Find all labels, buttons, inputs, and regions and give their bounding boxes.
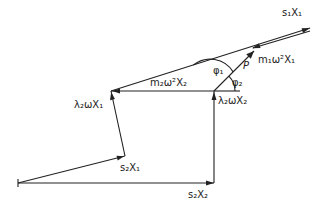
label-m2w2x2: m₂ω²X₂ [150,77,187,88]
arrowhead-s2x1 [117,156,125,161]
arrowhead-s2x2 [206,181,214,186]
arrowhead-l2wx2 [212,92,217,100]
label-s2x2: s₂X₂ [188,189,208,200]
label-s2x1: s₂X₁ [120,162,140,173]
vector-diagram: s₁X₁ m₁ω²X₁ P φ₁ φ₂ m₂ω²X₂ λ₂ωX₂ λ₂ωX₁ s… [0,0,327,215]
arrowhead-l2wx1 [110,92,115,100]
label-l2wx2: λ₂ωX₂ [218,95,247,106]
label-phi1: φ₁ [213,65,224,76]
vector-s2x1 [18,156,125,183]
label-s1x1: s₁X₁ [282,7,302,18]
label-phi2: φ₂ [232,77,243,88]
vector-l2wx1 [111,91,125,156]
label-l2wx1: λ₂ωX₁ [74,99,103,110]
vector-m1w2x1 [253,31,310,48]
label-m1w2x1: m₁ω²X₁ [258,54,295,65]
label-p: P [243,60,250,71]
